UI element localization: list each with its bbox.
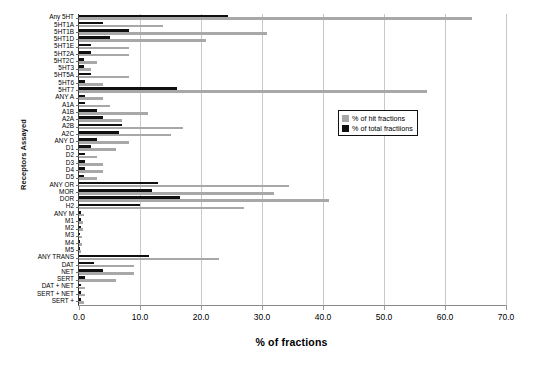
bar-total-fractions — [79, 58, 84, 61]
bar-total-fractions — [79, 182, 158, 185]
bar-group: 5HT2C — [79, 58, 506, 65]
bar-total-fractions — [79, 36, 110, 39]
x-axis-tick — [323, 305, 324, 310]
bar-total-fractions — [79, 65, 84, 68]
bar-hit-fractions — [79, 243, 82, 246]
y-axis-category-label: M1 — [0, 218, 74, 224]
bar-hit-fractions — [79, 236, 82, 239]
bar-total-fractions — [79, 15, 228, 18]
chart-legend: % of hit fractions% of total fractiions — [338, 110, 418, 136]
bar-group: H2 — [79, 203, 506, 210]
bar-total-fractions — [79, 211, 81, 214]
bar-total-fractions — [79, 102, 85, 105]
bar-group: 5HT5A — [79, 72, 506, 79]
bar-hit-fractions — [79, 17, 472, 20]
y-axis-category-label: M3 — [0, 232, 74, 238]
bar-hit-fractions — [79, 207, 244, 210]
bar-total-fractions — [79, 233, 80, 236]
bar-hit-fractions — [79, 134, 171, 137]
legend-item-label: % of total fractiions — [352, 124, 413, 133]
bar-hit-fractions — [79, 112, 148, 115]
bar-total-fractions — [79, 196, 180, 199]
x-axis-tick — [140, 305, 141, 310]
bar-group: D4 — [79, 167, 506, 174]
bar-total-fractions — [79, 167, 85, 170]
bar-total-fractions — [79, 87, 177, 90]
y-axis-category-label: SERT + — [0, 298, 74, 304]
bar-group: NET — [79, 269, 506, 276]
bar-hit-fractions — [79, 185, 289, 188]
bar-group: M1 — [79, 218, 506, 225]
bar-total-fractions — [79, 269, 103, 272]
bar-group: SERT + — [79, 298, 506, 305]
bar-hit-fractions — [79, 32, 267, 35]
bar-total-fractions — [79, 218, 81, 221]
plot-area: 0.010.020.030.040.050.060.070.0Any 5HT5H… — [78, 14, 506, 306]
bar-group: M2 — [79, 225, 506, 232]
bar-group: 5HT3 — [79, 65, 506, 72]
y-axis-category-label: D2 — [0, 152, 74, 158]
bar-group: DAT — [79, 261, 506, 268]
chart-figure: Receptors Assayed 0.010.020.030.040.050.… — [0, 0, 534, 365]
bar-group: 5HT2A — [79, 50, 506, 57]
x-axis-tick — [201, 305, 202, 310]
bar-group: 5HT1D — [79, 36, 506, 43]
bar-total-fractions — [79, 247, 80, 250]
bar-hit-fractions — [79, 105, 110, 108]
bar-hit-fractions — [79, 214, 84, 217]
bar-group: A2A — [79, 116, 506, 123]
bar-group: SERT — [79, 276, 506, 283]
bar-group: M3 — [79, 232, 506, 239]
bar-total-fractions — [79, 95, 85, 98]
bar-group: ANY OR — [79, 181, 506, 188]
bar-hit-fractions — [79, 61, 97, 64]
bar-group: A2B — [79, 123, 506, 130]
bar-hit-fractions — [79, 301, 84, 304]
bar-hit-fractions — [79, 39, 206, 42]
bar-group: D1 — [79, 145, 506, 152]
y-axis-category-label: D3 — [0, 160, 74, 166]
bar-hit-fractions — [79, 250, 81, 253]
bar-hit-fractions — [79, 54, 129, 57]
bar-group: 5HT1B — [79, 29, 506, 36]
bar-total-fractions — [79, 262, 94, 265]
y-axis-category-label: D1 — [0, 145, 74, 151]
bar-hit-fractions — [79, 177, 97, 180]
bar-hit-fractions — [79, 170, 103, 173]
x-axis-tick-label: 60.0 — [425, 312, 465, 322]
bar-group: ANY D — [79, 138, 506, 145]
bar-hit-fractions — [79, 141, 129, 144]
y-axis-category-label: 5HT1A — [0, 22, 74, 28]
bar-hit-fractions — [79, 228, 83, 231]
x-axis-title: % of fractions — [78, 336, 505, 348]
bar-group: ANY A — [79, 94, 506, 101]
x-axis-tick-label: 40.0 — [303, 312, 343, 322]
bar-group: DOR — [79, 196, 506, 203]
y-axis-category-label: ANY A — [0, 94, 74, 100]
bar-total-fractions — [79, 255, 149, 258]
bar-hit-fractions — [79, 83, 103, 86]
y-axis-category-label: 5HT1E — [0, 43, 74, 49]
y-axis-category-label: 5HT5A — [0, 72, 74, 78]
bar-hit-fractions — [79, 192, 274, 195]
y-axis-category-label: DOR — [0, 196, 74, 202]
gridline — [506, 14, 507, 305]
bar-total-fractions — [79, 73, 91, 76]
bar-group: 5HT6 — [79, 79, 506, 86]
bar-total-fractions — [79, 160, 85, 163]
y-axis-category-label: DAT + NET — [0, 283, 74, 289]
y-axis-category-label: ANY OR — [0, 182, 74, 188]
bar-hit-fractions — [79, 272, 134, 275]
legend-swatch-icon — [342, 115, 349, 122]
bar-hit-fractions — [79, 258, 219, 261]
bar-total-fractions — [79, 189, 152, 192]
bar-group: 5HT1A — [79, 21, 506, 28]
bar-group: D3 — [79, 160, 506, 167]
legend-swatch-icon — [342, 125, 349, 132]
bar-hit-fractions — [79, 265, 134, 268]
bar-group: M5 — [79, 247, 506, 254]
x-axis-tick-label: 30.0 — [242, 312, 282, 322]
bar-total-fractions — [79, 124, 122, 127]
bar-total-fractions — [79, 116, 103, 119]
y-axis-category-label: ANY TRANS — [0, 254, 74, 260]
